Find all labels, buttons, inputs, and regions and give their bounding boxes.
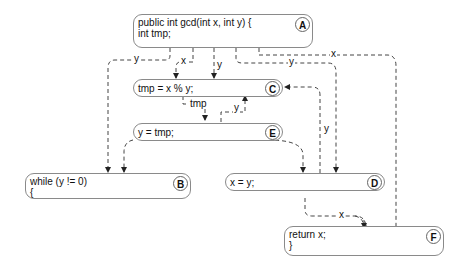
node-b-line2: { [30,187,186,198]
node-d-badge: D [367,175,382,190]
edge-label-a-c-y: y [216,60,223,70]
edge-label-c-e: tmp [189,99,208,109]
node-b-badge: B [173,176,188,191]
edge-label-a-c-x: x [180,56,187,66]
edge-label-d-f: x [338,210,345,220]
node-a-badge: A [295,17,310,32]
node-f: return x; } F [284,226,444,256]
node-b-line1: while (y != 0) [30,176,186,187]
node-f-line2: } [289,240,439,251]
edge-label-e-c: y [233,103,240,113]
node-c-line1: tmp = x % y; [138,83,278,94]
node-a: public int gcd(int x, int y) { int tmp; … [133,14,313,48]
node-c: tmp = x % y; C [133,79,283,97]
edge-label-a-b: y [133,54,140,64]
node-e: y = tmp; E [133,123,283,141]
node-b: while (y != 0) { B [25,173,191,199]
edge-label-d-c: y [323,124,330,134]
node-f-line1: return x; [289,229,439,240]
node-a-line2: int tmp; [138,28,308,39]
node-e-line1: y = tmp; [138,127,278,138]
node-e-badge: E [265,125,280,140]
node-c-badge: C [265,81,280,96]
node-a-line1: public int gcd(int x, int y) { [138,17,308,28]
node-f-badge: F [426,229,441,244]
node-d: x = y; D [225,173,385,191]
node-d-line1: x = y; [230,177,380,188]
edge-label-a-d: y [288,57,295,67]
edge-label-a-f: x [330,49,337,59]
